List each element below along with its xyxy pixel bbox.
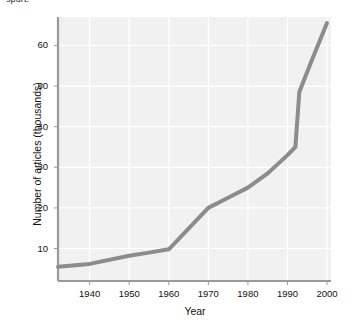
y-tick-label: 60 <box>26 39 48 50</box>
x-tick-label: 1970 <box>191 288 225 299</box>
y-tick-label: 30 <box>26 161 48 172</box>
x-tick-label: 1980 <box>231 288 265 299</box>
y-tick-label: 40 <box>26 121 48 132</box>
y-tick-label: 20 <box>26 202 48 213</box>
x-tick-label: 2000 <box>310 288 344 299</box>
x-axis-label: Year <box>58 305 332 317</box>
y-tick-label: 50 <box>26 80 48 91</box>
figure-container: spurt. Number of articles (thousands) Ye… <box>0 0 351 328</box>
x-tick-label: 1940 <box>73 288 107 299</box>
x-tick-label: 1960 <box>152 288 186 299</box>
y-tick-label: 10 <box>26 243 48 254</box>
line-chart-plot <box>0 0 351 328</box>
x-tick-label: 1950 <box>112 288 146 299</box>
plot-background <box>58 17 331 281</box>
x-tick-label: 1990 <box>270 288 304 299</box>
